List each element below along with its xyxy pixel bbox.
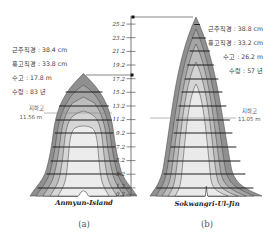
tree-a-name: Anmyun-Island xyxy=(54,199,113,207)
height-axis: 25.2 23.2 21.2 19.2 17.2 15.2 13.2 11.2 … xyxy=(112,16,136,197)
axis-tick-label: 13.2 xyxy=(113,103,126,109)
info-line: 근주직경 : 38.4 cm xyxy=(12,46,67,54)
crown-base-value: 11.56 m xyxy=(20,114,42,120)
crown-base-value: 11.05 m xyxy=(238,116,260,122)
axis-tick-label: 21.2 xyxy=(112,48,126,54)
axis-tick-label: 11.2 xyxy=(113,116,126,122)
axis-tick-label: 15.2 xyxy=(113,89,126,95)
axis-tick-label: 5.2 xyxy=(116,157,125,163)
axis-tick-label: 25.2 xyxy=(112,21,126,27)
info-line: 흉고직경 : 33.2 cm xyxy=(208,39,263,47)
subfigure-caption-b: (b) xyxy=(201,219,213,229)
crown-base-label: 지하고 xyxy=(242,107,257,115)
figure: 25.2 23.2 21.2 19.2 17.2 15.2 13.2 11.2 … xyxy=(0,0,272,236)
info-line: 흉고직경 : 33.8 cm xyxy=(12,60,67,68)
info-line: 근주직경 : 38.8 cm xyxy=(208,25,263,33)
axis-tick-label: 17.2 xyxy=(113,76,126,82)
axis-tick-label: 7.2 xyxy=(116,144,125,150)
info-line: 수고 : 17.8 m xyxy=(12,74,52,82)
subfigure-caption-a: (a) xyxy=(78,219,90,229)
axis-tick-label: 9.2 xyxy=(116,130,125,136)
axis-tick-label: 0.2 xyxy=(116,191,125,197)
info-line: 수고 : 26.2 m xyxy=(223,53,263,61)
height-line-tree-a xyxy=(86,74,134,77)
axis-tick-label: 19.2 xyxy=(113,62,126,68)
height-line-tree-b xyxy=(132,16,194,19)
tree-b-name: Sokwangri-Ul-Jin xyxy=(174,200,239,208)
stem-profile-canvas: 25.2 23.2 21.2 19.2 17.2 15.2 13.2 11.2 … xyxy=(0,0,272,236)
height-marker-icon xyxy=(131,74,134,77)
axis-tick-label: 3.2 xyxy=(116,171,125,177)
axis-tick-label: 1.2 xyxy=(116,183,125,189)
height-marker-icon xyxy=(132,16,135,19)
crown-base-label: 지하고 xyxy=(29,104,44,112)
axis-tick-label: 23.2 xyxy=(112,35,126,41)
info-line: 수령 : 57 년 xyxy=(229,67,263,75)
info-line: 수령 : 83 년 xyxy=(12,88,46,96)
